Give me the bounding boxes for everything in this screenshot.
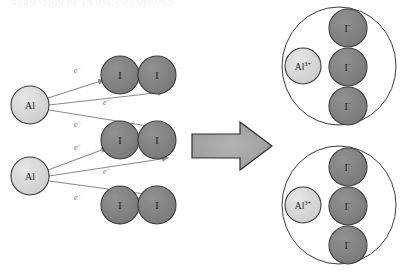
iodine-molecule-bottom: I I <box>101 186 176 224</box>
electron-label-3: e− <box>74 119 82 129</box>
electron-label-1: e− <box>74 65 82 75</box>
iodine-atom-label: I <box>118 200 121 211</box>
aluminum-atom-1: Al <box>11 86 49 124</box>
iodine-atom-label: I <box>155 200 158 211</box>
formula-unit-bottom: Al3+ I− I− I− <box>282 146 396 264</box>
iodine-molecule-middle: I I <box>101 121 176 159</box>
electron-arrow-1 <box>48 80 104 98</box>
electron-label-5: e− <box>103 166 111 176</box>
aluminum-atom-label: Al <box>25 171 35 182</box>
electron-label-4: e− <box>74 142 82 152</box>
diagram-canvas: FORMATION OF AN IONIC COMPOUND <box>0 0 416 273</box>
aluminum-atom-label: Al <box>25 100 35 111</box>
ionic-compound-formation-diagram: e− e− e− e− e− e− Al Al <box>0 0 416 273</box>
reaction-arrow-shape <box>192 122 272 170</box>
iodine-atom-label: I <box>118 70 121 81</box>
iodine-atom-label: I <box>118 135 121 146</box>
electron-arrow-3 <box>49 110 160 128</box>
electron-label-2: e− <box>103 97 111 107</box>
iodine-atom-label: I <box>155 70 158 81</box>
reaction-arrow <box>192 122 272 170</box>
iodine-molecule-top: I I <box>101 56 176 94</box>
iodine-atom-label: I <box>155 135 158 146</box>
electron-label-6: e− <box>74 192 82 202</box>
formula-unit-top: Al3+ I− I− I− <box>282 7 396 125</box>
aluminum-atom-2: Al <box>11 157 49 195</box>
